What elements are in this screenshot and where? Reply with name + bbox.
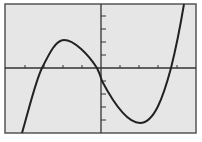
function-graph [0,0,202,142]
